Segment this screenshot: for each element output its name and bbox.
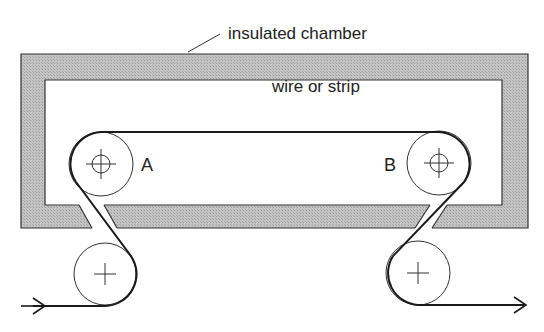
roller-a-label: A <box>141 155 153 175</box>
exit-roller <box>386 241 450 305</box>
entry-roller <box>74 243 136 305</box>
roller-b-label: B <box>384 155 396 175</box>
input-arrow-icon <box>21 298 45 314</box>
insulated-chamber-diagram: insulated chamber wire or strip <box>0 0 544 332</box>
wire-label: wire or strip <box>271 77 360 96</box>
leader-line <box>188 34 220 52</box>
chamber-label: insulated chamber <box>228 24 367 43</box>
